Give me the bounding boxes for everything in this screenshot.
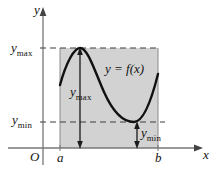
function-label-prefix: y = (105, 61, 126, 76)
x-axis-arrowhead (194, 145, 203, 152)
y-min-axis-tick-label: ymin (12, 113, 32, 129)
function-label: y = f(x) (105, 62, 144, 75)
y-max-axis-tick-label: ymax (11, 41, 33, 57)
interval-end-label-b: b (155, 151, 162, 164)
function-graph-figure: y x O a b ymax ymin ymax ymin y = f(x) (0, 0, 217, 177)
y-axis-label: y (34, 3, 40, 16)
y-max-measure-label: ymax (70, 85, 92, 101)
origin-label: O (30, 150, 39, 163)
y-max-axis-tick-subscript: max (17, 48, 33, 58)
x-axis-label: x (203, 148, 209, 161)
y-min-measure-subscript: min (147, 133, 161, 143)
y-max-measure-subscript: max (76, 92, 92, 102)
y-min-axis-tick-subscript: min (18, 120, 32, 130)
function-label-arg: (x) (130, 61, 144, 76)
y-axis-arrowhead (40, 7, 47, 16)
y-min-measure-label: ymin (141, 126, 161, 142)
interval-start-label-a: a (57, 151, 64, 164)
